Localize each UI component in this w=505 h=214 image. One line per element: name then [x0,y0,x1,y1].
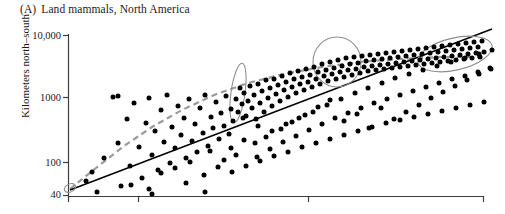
data-point [254,117,259,122]
data-point [288,71,293,76]
data-point [116,94,121,99]
data-point [434,56,439,61]
data-point [270,104,275,109]
data-point [372,58,377,63]
data-point [440,44,445,49]
data-point [270,129,275,134]
data-point [206,144,211,149]
data-point [176,104,181,109]
data-point [412,53,417,58]
data-point [272,77,277,82]
data-point [435,64,440,69]
data-point [342,133,347,138]
data-point [310,85,315,90]
data-point [346,68,351,73]
data-point [424,85,429,90]
data-point [477,52,482,57]
data-point [140,176,145,181]
data-point [119,184,124,189]
data-point [125,117,130,122]
data-point [472,40,477,45]
data-point [240,102,245,107]
data-point [330,72,335,77]
data-point [208,149,213,154]
data-point [396,55,401,60]
data-point [417,103,422,108]
data-point [325,103,330,108]
data-point [231,119,236,124]
data-point [238,86,243,91]
data-point [393,76,398,81]
data-point [398,93,403,98]
data-point [294,134,299,139]
data-point [422,62,427,67]
data-point [296,69,301,74]
data-point [230,170,235,175]
data-point [201,131,206,136]
data-point [372,101,377,106]
data-point [262,110,267,115]
data-point [242,138,247,143]
data-point [426,57,431,62]
data-point [378,63,383,68]
data-point [147,187,152,192]
data-point [482,50,487,55]
data-point [418,58,423,63]
data-point [356,61,361,66]
data-point [202,173,207,178]
data-point [203,93,208,98]
data-point [297,116,302,121]
data-point [362,65,367,70]
data-point [449,60,454,65]
data-point [312,65,317,70]
data-point [402,60,407,65]
data-point [250,106,255,111]
plot-canvas [0,0,505,214]
data-point [482,100,487,105]
data-point [184,181,189,186]
data-point [336,58,341,63]
data-point [429,96,434,101]
data-point [332,66,337,71]
data-point [463,56,468,61]
data-point [290,85,295,90]
data-point [437,81,442,86]
data-point [385,97,390,102]
data-point [355,112,360,117]
data-point [284,122,289,127]
data-point [311,110,316,115]
data-point [404,110,409,115]
data-point [307,128,312,133]
data-point [292,77,297,82]
data-point [308,73,313,78]
data-point [150,153,155,158]
data-point [328,60,333,65]
data-point [366,69,371,74]
data-point [253,141,258,146]
data-point [298,82,303,87]
data-point [282,88,287,93]
data-point [102,156,107,161]
data-point [320,122,325,127]
data-point [84,179,89,184]
data-point [227,132,232,137]
data-point [278,99,283,104]
data-point [258,159,263,164]
data-point [276,83,281,88]
data-point [193,122,198,127]
data-point [414,63,419,68]
data-point [453,84,458,89]
data-point [388,56,393,61]
data-point [436,50,441,55]
data-point [286,95,291,100]
data-point [266,96,271,101]
data-point [430,61,435,66]
data-point [476,70,481,75]
data-point [187,97,192,102]
data-point [420,52,425,57]
data-point [244,164,249,169]
data-point [384,51,389,56]
data-point [470,56,475,61]
data-point [324,68,329,73]
data-point [132,101,137,106]
